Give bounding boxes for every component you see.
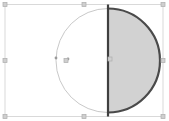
vertex-handle-left[interactable] [64,59,68,63]
vertex-handle-segment-center[interactable] [108,57,112,61]
handle-bottom-right[interactable] [161,115,165,119]
handle-middle-left[interactable] [3,59,7,63]
handle-top-right[interactable] [161,3,165,7]
handle-top-center[interactable] [82,3,86,7]
geometry-figure[interactable] [0,0,169,121]
handle-bottom-center[interactable] [82,115,86,119]
point-marker-a[interactable] [55,57,58,60]
handle-top-left[interactable] [3,3,7,7]
segment-fill[interactable] [108,9,160,113]
drawing-canvas[interactable] [0,0,169,121]
handle-bottom-left[interactable] [3,115,7,119]
handle-middle-right[interactable] [161,59,165,63]
